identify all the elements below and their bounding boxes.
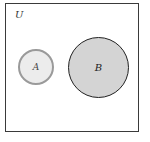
set-b-circle: B [68,37,129,98]
set-a-circle: A [18,49,54,85]
set-b-label: B [95,62,102,73]
universe-label: U [15,9,23,20]
set-a-label: A [33,62,40,72]
